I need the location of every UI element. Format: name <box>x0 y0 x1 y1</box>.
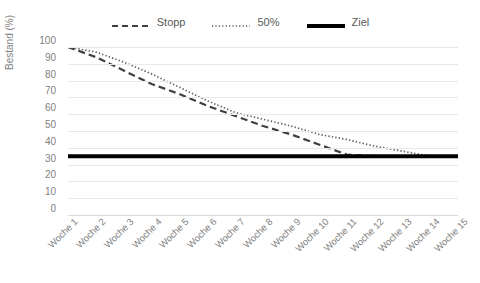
y-axis-ticks: 1009080706050403020100 <box>26 41 56 221</box>
gridline <box>68 165 458 166</box>
gridline <box>68 131 458 132</box>
y-tick-label: 0 <box>50 203 56 215</box>
gridline <box>68 181 458 182</box>
gridline <box>68 114 458 115</box>
y-tick-label: 10 <box>45 186 56 198</box>
y-tick-label: 90 <box>45 52 56 64</box>
x-axis-labels: Woche 1Woche 2Woche 3Woche 4Woche 5Woche… <box>68 216 458 278</box>
dashed-line-icon <box>111 17 151 27</box>
y-tick-label: 20 <box>45 169 56 181</box>
gridline <box>68 148 458 149</box>
legend-label-ziel: Ziel <box>352 17 370 28</box>
y-tick-label: 60 <box>45 102 56 114</box>
gridline <box>68 64 458 65</box>
gridline <box>68 97 458 98</box>
gridline <box>68 198 458 199</box>
y-tick-label: 40 <box>45 136 56 148</box>
y-tick-label: 50 <box>45 119 56 131</box>
y-tick-label: 80 <box>45 69 56 81</box>
plot-area <box>68 47 458 215</box>
gridline <box>68 81 458 82</box>
line-chart: Stopp 50% Ziel Bestand (%) 1009080706050… <box>0 0 480 283</box>
legend-item-stopp[interactable]: Stopp <box>111 17 186 28</box>
dotted-line-icon <box>211 17 251 27</box>
legend-label-50-percent: 50% <box>257 17 279 28</box>
y-axis-title: Bestand (%) <box>4 15 15 70</box>
solid-line-icon <box>306 17 346 27</box>
y-tick-label: 100 <box>39 35 56 47</box>
gridline <box>68 47 458 48</box>
y-tick-label: 70 <box>45 85 56 97</box>
legend-item-50-percent[interactable]: 50% <box>211 17 279 28</box>
chart-legend: Stopp 50% Ziel <box>0 12 480 32</box>
legend-label-stopp: Stopp <box>157 17 186 28</box>
legend-item-ziel[interactable]: Ziel <box>306 17 370 28</box>
y-tick-label: 30 <box>45 153 56 165</box>
